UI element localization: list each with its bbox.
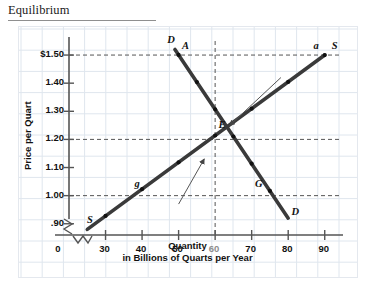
curve-label-D: D — [167, 34, 175, 45]
curve-label-A: A — [182, 40, 189, 51]
x-tick-label: 30 — [91, 243, 119, 254]
curve-label-E: E — [218, 119, 225, 130]
x-tick-label: 50 — [164, 243, 192, 254]
x-tick-label: 0 — [44, 243, 72, 254]
x-tick-label: 40 — [127, 243, 155, 254]
y-tick-label: 1.00 — [20, 189, 64, 200]
x-tick-label: 90 — [310, 243, 338, 254]
y-tick-label: 1.10 — [20, 161, 64, 172]
x-tick-label: 60 — [200, 243, 228, 254]
curve-label-G: G — [255, 178, 263, 189]
y-tick-label: 1.30 — [20, 104, 64, 115]
y-tick-label: 1.40 — [20, 76, 64, 87]
curve-label-S: S — [332, 40, 338, 51]
y-tick-label: $1.50 — [20, 48, 64, 59]
page-title: Equilibrium — [8, 3, 70, 18]
curve-label-S: S — [87, 214, 93, 225]
curve-label-g: g — [134, 178, 139, 189]
y-tick-label: 1.20 — [20, 132, 64, 143]
x-tick-label: 80 — [273, 243, 301, 254]
curve-label-D: D — [292, 206, 300, 217]
title-underline — [8, 20, 156, 21]
curve-label-a: a — [313, 40, 318, 51]
x-tick-label: 70 — [237, 243, 265, 254]
y-tick-label: .90 — [20, 217, 64, 228]
